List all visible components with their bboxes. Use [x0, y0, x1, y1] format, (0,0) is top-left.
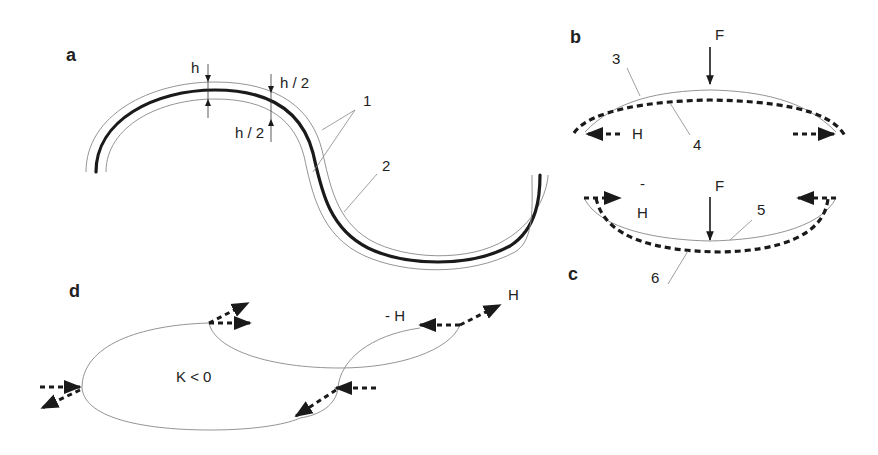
label-h: h: [191, 59, 199, 76]
panel-b: b F H 3 4: [570, 26, 845, 153]
panel-c: c F - H 5 6: [568, 175, 836, 286]
callout-5: 5: [757, 201, 765, 218]
label-h-half-bottom: h / 2: [235, 124, 264, 141]
leader-line-5: [730, 220, 752, 240]
panel-label-d: d: [69, 281, 80, 301]
horizontal-label-h: H: [637, 204, 648, 221]
shell-middle-surface: [96, 90, 540, 262]
h-label: H: [508, 286, 519, 303]
force-label-f: F: [715, 26, 724, 43]
force-arrow-diagonal-icon: [209, 303, 248, 323]
saddle-boundary-upper-curve: [209, 323, 460, 368]
shell-inner-surface: [106, 99, 532, 270]
panel-label-b: b: [570, 27, 581, 47]
panel-d: d K < 0 - H H: [40, 281, 519, 430]
leader-line-6: [668, 251, 688, 284]
horizontal-label-minus: -: [640, 175, 645, 192]
force-arrow-diagonal-icon: [460, 305, 500, 325]
callout-6: 6: [651, 269, 659, 286]
leader-line-1a: [322, 110, 355, 130]
label-h-half-top: h / 2: [280, 74, 309, 91]
curvature-label: K < 0: [176, 368, 211, 385]
leader-line-4: [670, 103, 690, 135]
arch-deformed-shape: [574, 100, 845, 136]
leader-line-3: [627, 68, 640, 96]
callout-3: 3: [612, 50, 620, 67]
panel-a: a h h / 2 h / 2 1 2: [66, 45, 548, 270]
minus-h-label: - H: [385, 307, 405, 324]
dimension-arrow-up-icon: [268, 119, 274, 126]
figure-canvas: a h h / 2 h / 2 1 2 b F: [0, 0, 878, 455]
force-arrow-diagonal-icon: [296, 390, 336, 416]
force-arrow-diagonal-icon: [42, 390, 80, 408]
saddle-boundary-small-loop: [300, 328, 420, 418]
panel-label-a: a: [66, 45, 77, 65]
callout-1: 1: [363, 92, 371, 109]
panel-label-c: c: [568, 264, 578, 284]
leader-line-2: [344, 174, 377, 212]
callout-2: 2: [382, 157, 390, 174]
arch-initial-shape: [585, 90, 836, 132]
force-label-f: F: [715, 177, 724, 194]
dimension-arrow-up-icon: [205, 99, 211, 106]
horizontal-label-h: H: [632, 125, 643, 142]
callout-4: 4: [693, 136, 701, 153]
arch-deformed-shape: [596, 198, 828, 252]
dimension-arrow-down-icon: [205, 75, 211, 82]
